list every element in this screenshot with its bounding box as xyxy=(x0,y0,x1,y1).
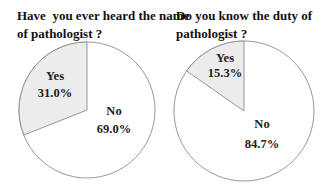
pie-chart-2: Yes 15.3% No 84.7% xyxy=(174,41,314,181)
pie-2-no-value: 84.7% xyxy=(245,137,279,151)
pie-1-yes-label: Yes xyxy=(46,69,64,83)
pie-2-yes-label: Yes xyxy=(216,51,234,65)
pie-1-no-label: No xyxy=(106,104,121,118)
pie-1-yes-value: 31.0% xyxy=(38,86,72,100)
pie-1-no-value: 69.0% xyxy=(97,122,131,136)
pie-chart-1: Yes 31.0% No 69.0% xyxy=(19,42,155,178)
pie-charts: Yes 31.0% No 69.0% Yes 15.3% No 84.7% xyxy=(0,0,326,187)
pie-2-yes-value: 15.3% xyxy=(208,66,242,80)
pie-2-no-label: No xyxy=(254,117,269,131)
